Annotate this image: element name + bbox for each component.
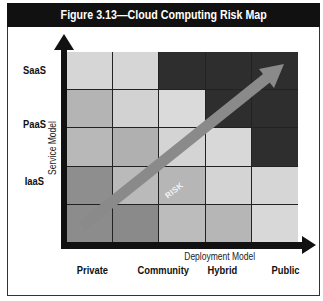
grid-cell-r5-c2 <box>113 205 159 242</box>
x-axis-arrowhead-icon <box>302 236 316 254</box>
grid-cell-r5-c3 <box>159 205 205 242</box>
grid-cell-r2-c2 <box>113 90 159 127</box>
grid-cell-r5-c5 <box>252 205 298 242</box>
grid-cell-r3-c5 <box>252 128 298 165</box>
grid-cell-r3-c2 <box>113 128 159 165</box>
grid-cell-r4-c4 <box>206 167 252 204</box>
grid-cell-r4-c5 <box>252 167 298 204</box>
grid-cell-r2-c5 <box>252 90 298 127</box>
grid-cell-r3-c4 <box>206 128 252 165</box>
grid-cell-r4-c1 <box>66 167 112 204</box>
title-bar: Figure 3.13—Cloud Computing Risk Map <box>7 3 320 27</box>
x-label-private: Private <box>62 264 122 276</box>
grid-cell-r2-c3 <box>159 90 205 127</box>
y-axis-line <box>61 48 67 248</box>
figure-title: Figure 3.13—Cloud Computing Risk Map <box>60 3 266 27</box>
grid-cell-r3-c3 <box>159 128 205 165</box>
risk-grid <box>66 52 298 242</box>
grid-cell-r4-c2 <box>113 167 159 204</box>
grid-cell-r1-c3 <box>159 52 205 89</box>
grid-cell-r1-c2 <box>113 52 159 89</box>
y-axis-title: Service Model <box>47 116 58 179</box>
grid-cell-r3-c1 <box>66 128 112 165</box>
x-label-public: Public <box>256 264 316 276</box>
grid-cell-r2-c4 <box>206 90 252 127</box>
x-label-community: Community <box>133 264 193 276</box>
grid-cell-r5-c4 <box>206 205 252 242</box>
x-label-hybrid: Hybrid <box>192 264 252 276</box>
y-label-saas: SaaS <box>14 64 54 76</box>
grid-cell-r2-c1 <box>66 90 112 127</box>
x-axis-title: Deployment Model <box>160 251 280 262</box>
grid-cell-r1-c4 <box>206 52 252 89</box>
grid-cell-r1-c5 <box>252 52 298 89</box>
x-axis-line <box>61 242 305 249</box>
grid-cell-r1-c1 <box>66 52 112 89</box>
grid-cell-r5-c1 <box>66 205 112 242</box>
y-axis-arrowhead-icon <box>54 34 74 50</box>
